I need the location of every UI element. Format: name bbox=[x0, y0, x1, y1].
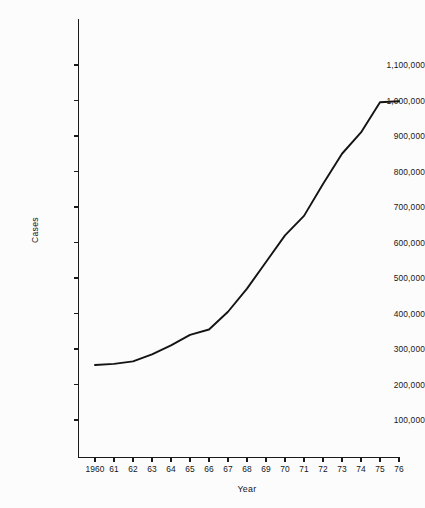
data-series-line bbox=[95, 101, 399, 365]
x-axis-ticks bbox=[95, 458, 399, 463]
x-tick-label: 61 bbox=[109, 465, 119, 473]
plot-area bbox=[0, 0, 425, 508]
x-tick-label: 1960 bbox=[85, 465, 104, 473]
x-tick-label: 63 bbox=[147, 465, 157, 473]
x-tick-label: 65 bbox=[185, 465, 195, 473]
y-tick-label: 700,000 bbox=[354, 203, 425, 211]
y-tick-label: 900,000 bbox=[354, 132, 425, 140]
x-tick-label: 62 bbox=[128, 465, 138, 473]
y-tick-label: 500,000 bbox=[354, 274, 425, 282]
y-tick-label: 800,000 bbox=[354, 167, 425, 175]
x-tick-label: 64 bbox=[166, 465, 176, 473]
x-tick-label: 67 bbox=[223, 465, 233, 473]
y-tick-label: 400,000 bbox=[354, 309, 425, 317]
y-axis-ticks bbox=[74, 65, 79, 420]
x-tick-label: 66 bbox=[204, 465, 214, 473]
x-tick-label: 73 bbox=[337, 465, 347, 473]
axes bbox=[79, 19, 401, 458]
x-tick-label: 74 bbox=[356, 465, 366, 473]
y-tick-label: 600,000 bbox=[354, 238, 425, 246]
y-axis-title: Cases bbox=[31, 217, 40, 243]
line-chart: 100,000200,000300,000400,000500,000600,0… bbox=[0, 0, 425, 508]
y-tick-label: 100,000 bbox=[354, 416, 425, 424]
x-tick-label: 69 bbox=[261, 465, 271, 473]
x-tick-label: 70 bbox=[280, 465, 290, 473]
x-tick-label: 72 bbox=[318, 465, 328, 473]
x-tick-label: 71 bbox=[299, 465, 309, 473]
y-tick-label: 300,000 bbox=[354, 345, 425, 353]
y-tick-label: 1,100,000 bbox=[354, 61, 425, 69]
x-tick-label: 68 bbox=[242, 465, 252, 473]
x-tick-label: 76 bbox=[394, 465, 404, 473]
y-tick-label: 200,000 bbox=[354, 380, 425, 388]
x-axis-title: Year bbox=[238, 485, 257, 494]
y-tick-label: 1,000,000 bbox=[354, 96, 425, 104]
x-tick-label: 75 bbox=[375, 465, 385, 473]
